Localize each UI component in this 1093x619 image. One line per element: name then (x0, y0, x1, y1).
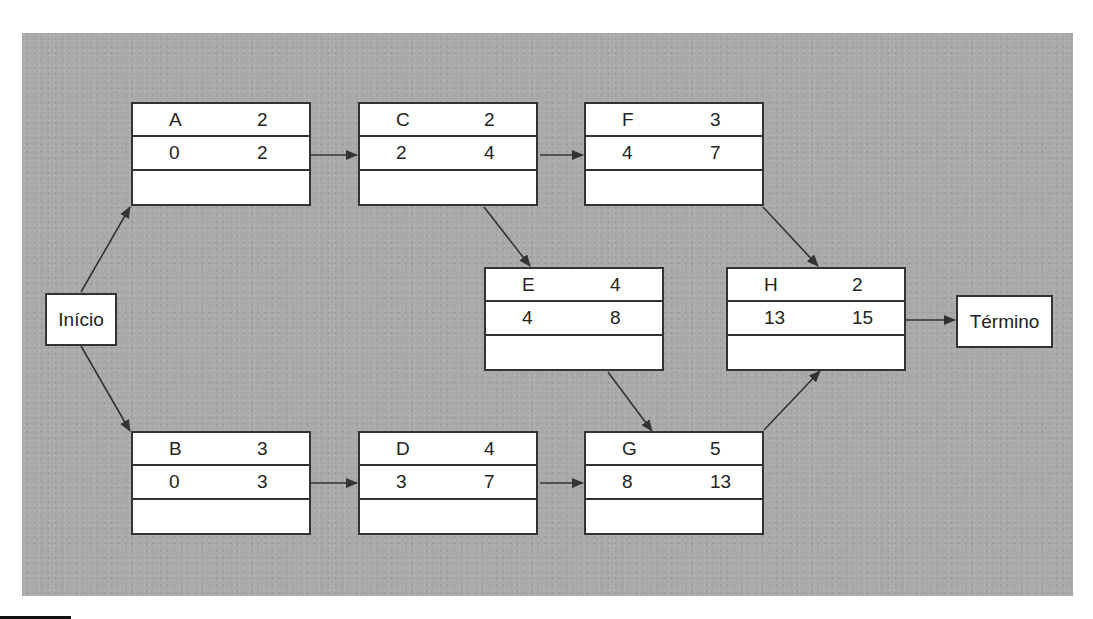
activity-node-a: A 2 0 2 (131, 102, 311, 206)
node-early-row: 13 15 (728, 302, 904, 335)
node-header-row: G 5 (586, 433, 762, 466)
activity-node-g: G 5 8 13 (584, 431, 764, 535)
early-start: 2 (396, 142, 407, 164)
node-header-row: D 4 (360, 433, 536, 466)
node-early-row: 0 2 (133, 137, 309, 170)
early-start: 4 (522, 307, 533, 329)
early-finish: 7 (710, 142, 721, 164)
node-header-row: C 2 (360, 104, 536, 137)
node-early-row: 4 7 (586, 137, 762, 170)
node-late-row (486, 336, 662, 369)
node-early-row: 2 4 (360, 137, 536, 170)
early-start: 3 (396, 471, 407, 493)
activity-duration: 2 (484, 109, 495, 131)
node-header-row: A 2 (133, 104, 309, 137)
node-early-row: 0 3 (133, 466, 309, 499)
node-late-row (360, 171, 536, 204)
start-label: Início (58, 309, 103, 331)
early-finish: 8 (610, 307, 621, 329)
activity-id: B (169, 438, 182, 460)
early-start: 8 (622, 471, 633, 493)
early-finish: 7 (484, 471, 495, 493)
activity-duration: 2 (852, 274, 863, 296)
early-finish: 3 (257, 471, 268, 493)
activity-duration: 3 (257, 438, 268, 460)
node-late-row (728, 336, 904, 369)
end-label: Término (970, 311, 1040, 333)
early-finish: 4 (484, 142, 495, 164)
early-start: 0 (169, 142, 180, 164)
activity-duration: 2 (257, 109, 268, 131)
activity-node-b: B 3 0 3 (131, 431, 311, 535)
activity-id: D (396, 438, 410, 460)
activity-node-f: F 3 4 7 (584, 102, 764, 206)
start-node: Início (45, 293, 117, 346)
node-header-row: H 2 (728, 269, 904, 302)
node-late-row (360, 500, 536, 533)
early-finish: 15 (852, 307, 873, 329)
activity-duration: 4 (484, 438, 495, 460)
early-start: 4 (622, 142, 633, 164)
activity-node-d: D 4 3 7 (358, 431, 538, 535)
early-finish: 13 (710, 471, 731, 493)
node-header-row: E 4 (486, 269, 662, 302)
activity-id: F (622, 109, 634, 131)
activity-id: C (396, 109, 410, 131)
node-late-row (586, 171, 762, 204)
activity-node-c: C 2 2 4 (358, 102, 538, 206)
node-early-row: 8 13 (586, 466, 762, 499)
node-header-row: B 3 (133, 433, 309, 466)
node-late-row (133, 500, 309, 533)
activity-node-h: H 2 13 15 (726, 267, 906, 371)
activity-id: H (764, 274, 778, 296)
node-late-row (586, 500, 762, 533)
node-early-row: 4 8 (486, 302, 662, 335)
activity-id: A (169, 109, 182, 131)
node-early-row: 3 7 (360, 466, 536, 499)
activity-id: E (522, 274, 535, 296)
early-finish: 2 (257, 142, 268, 164)
activity-duration: 5 (710, 438, 721, 460)
activity-duration: 4 (610, 274, 621, 296)
end-node: Término (956, 295, 1053, 348)
early-start: 0 (169, 471, 180, 493)
node-header-row: F 3 (586, 104, 762, 137)
activity-node-e: E 4 4 8 (484, 267, 664, 371)
node-late-row (133, 171, 309, 204)
activity-id: G (622, 438, 637, 460)
early-start: 13 (764, 307, 785, 329)
activity-duration: 3 (710, 109, 721, 131)
